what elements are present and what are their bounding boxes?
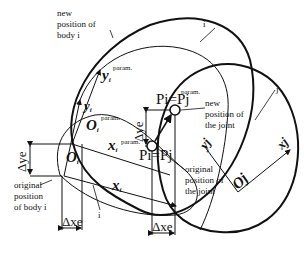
label-original-joint-1: original (185, 164, 213, 174)
label-O-i: Oi (66, 149, 79, 166)
label-original-joint-3: the joint (185, 186, 215, 196)
label-O-j: Oj (229, 170, 252, 193)
label-Pi-Pj-original: Pi=Pj (139, 147, 172, 163)
label-new-position-body-i-1: new (57, 8, 72, 18)
svg-text:param.: param. (181, 88, 200, 96)
label-new-position-body-i-3: body i (57, 30, 80, 40)
label-new-joint-2: position of (205, 109, 244, 119)
label-delta-y-e-mid: Δye (131, 121, 146, 142)
label-y-j: yj (195, 135, 214, 153)
svg-text:param.: param. (113, 64, 132, 72)
label-original-joint-2: position of (185, 175, 224, 185)
label-x-j: xj (273, 134, 292, 153)
svg-text:param.: param. (101, 114, 120, 122)
label-x-i-param: xi (107, 137, 118, 154)
label-body-j: j (275, 84, 279, 94)
label-delta-x-e-right: Δxe (152, 219, 173, 234)
label-y-i-param: yi (100, 67, 111, 84)
label-new-position-body-i-2: position of (57, 19, 96, 29)
label-original-body-i-1: original (14, 180, 42, 190)
label-x-i: xi (111, 177, 122, 194)
label-body-i-bottom: i (98, 210, 101, 220)
label-original-body-i-3: of body i (14, 202, 47, 212)
label-O-i-param: Oi (86, 117, 99, 134)
joint-displacement-diagram: new position of body i i j i original po… (0, 0, 304, 254)
label-delta-x-e-left: Δxe (62, 214, 83, 229)
label-new-joint-3: the joint (205, 120, 235, 130)
label-new-joint-1: new (205, 98, 220, 108)
label-original-body-i-2: position (14, 191, 44, 201)
label-y-i: yi (82, 98, 92, 114)
label-delta-y-e-left: Δye (14, 151, 29, 172)
